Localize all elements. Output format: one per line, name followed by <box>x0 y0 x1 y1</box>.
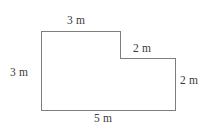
dimension-label-middle-top: 2 m <box>133 42 151 55</box>
l-shape-polygon <box>41 31 175 110</box>
dimension-label-bottom: 5 m <box>94 112 112 125</box>
dimension-label-right: 2 m <box>180 74 198 87</box>
dimension-label-left: 3 m <box>10 66 28 79</box>
dimension-label-top: 3 m <box>67 14 85 27</box>
figure-canvas: 3 m 3 m 2 m 2 m 5 m <box>0 0 224 134</box>
